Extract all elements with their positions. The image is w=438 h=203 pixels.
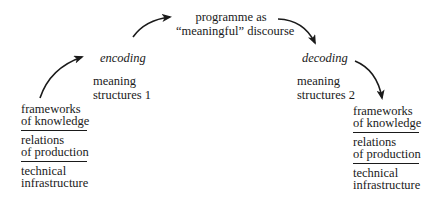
right-stack: frameworks of knowledge relations of pro… — [353, 104, 419, 193]
left-stack-relations-line-2: of production — [21, 146, 87, 158]
meaning-structures-1-line-2: structures 1 — [93, 89, 151, 102]
meaning-structures-2: meaning structures 2 — [297, 75, 355, 101]
meaning-structures-2-line-2: structures 2 — [297, 89, 355, 102]
meaning-structures-1: meaning structures 1 — [93, 75, 151, 101]
left-stack-frameworks-line-2: of knowledge — [21, 115, 87, 127]
arrow-decoding-to-stack — [355, 61, 382, 98]
right-stack-relations-line-2: of production — [353, 148, 419, 160]
left-stack-divider-1 — [21, 130, 87, 131]
meaning-structures-1-line-1: meaning — [93, 75, 151, 88]
right-stack-divider-2 — [353, 163, 419, 164]
right-stack-technical-line-2: infrastructure — [353, 179, 419, 191]
left-stack-technical: technical infrastructure — [21, 164, 87, 191]
left-stack: frameworks of knowledge relations of pro… — [21, 102, 87, 191]
left-stack-technical-line-2: infrastructure — [21, 177, 87, 189]
left-stack-frameworks: frameworks of knowledge — [21, 102, 87, 129]
left-stack-relations: relations of production — [21, 133, 87, 160]
right-stack-frameworks: frameworks of knowledge — [353, 104, 419, 131]
programme-label: programme as “meaningful” discourse — [176, 11, 286, 37]
right-stack-relations: relations of production — [353, 135, 419, 162]
arrow-stack-to-encoding — [40, 57, 82, 98]
meaning-structures-2-line-1: meaning — [297, 75, 355, 88]
programme-line-2: “meaningful” discourse — [176, 25, 286, 38]
decoding-label: decoding — [302, 52, 348, 65]
arrow-encoding-to-programme — [133, 17, 170, 37]
right-stack-frameworks-line-2: of knowledge — [353, 117, 419, 129]
right-stack-technical: technical infrastructure — [353, 166, 419, 193]
programme-line-1: programme as — [176, 11, 286, 24]
left-stack-divider-2 — [21, 161, 87, 162]
encoding-label: encoding — [100, 52, 146, 65]
right-stack-divider-1 — [353, 132, 419, 133]
